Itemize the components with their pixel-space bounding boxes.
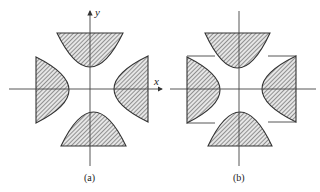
region-bottom bbox=[61, 112, 126, 146]
panel-b: (b) bbox=[170, 11, 316, 184]
y-axis-label: y bbox=[94, 6, 100, 18]
caption-b: (b) bbox=[233, 172, 245, 184]
region-top bbox=[205, 33, 270, 68]
x-axis-label: x bbox=[153, 75, 159, 87]
region-left bbox=[36, 57, 69, 123]
region-left bbox=[187, 57, 220, 123]
figure: x y (a) (b) bbox=[0, 0, 320, 192]
region-bottom bbox=[208, 112, 272, 146]
panel-a: x y (a) bbox=[9, 6, 162, 184]
caption-a: (a) bbox=[84, 172, 95, 184]
